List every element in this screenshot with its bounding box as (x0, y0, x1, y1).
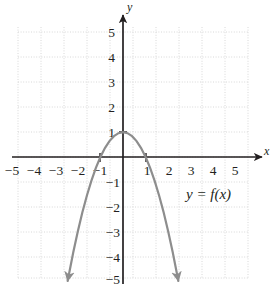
x-tick-label-4: 4 (210, 163, 217, 178)
x-tick-label--5: −5 (5, 163, 20, 178)
y-tick-label--5: −5 (106, 272, 121, 287)
x-tick-label-2: 2 (166, 163, 173, 178)
function-annotation: y = f(x) (184, 186, 231, 203)
grid-lines (18, 27, 248, 278)
y-tick-label-2: 2 (108, 100, 115, 115)
y-tick-label-3: 3 (108, 75, 115, 90)
graph-figure: x y −5 −4 −3 −2 −1 1 2 3 4 5 5 4 3 2 1 −… (0, 0, 274, 289)
x-tick-label-3: 3 (188, 163, 195, 178)
y-tick-label--1: −1 (106, 175, 120, 190)
y-tick-labels: 5 4 3 2 1 −1 −2 −3 −4 −5 (106, 25, 121, 287)
x-tick-labels: −5 −4 −3 −2 −1 1 2 3 4 5 (5, 163, 239, 178)
y-axis-label: y (126, 0, 133, 14)
x-tick-label--4: −4 (27, 163, 42, 178)
x-axis-label: x (263, 144, 270, 158)
y-tick-label--4: −4 (106, 250, 121, 265)
coordinate-plane-svg: x y −5 −4 −3 −2 −1 1 2 3 4 5 5 4 3 2 1 −… (0, 0, 274, 289)
y-tick-label--3: −3 (106, 225, 121, 240)
y-tick-label-5: 5 (108, 25, 115, 40)
x-tick-label--2: −2 (71, 163, 85, 178)
function-annotation-text: y = f(x) (184, 186, 231, 203)
y-tick-label--2: −2 (106, 200, 120, 215)
y-tick-label-4: 4 (108, 50, 115, 65)
x-tick-label--3: −3 (49, 163, 64, 178)
x-tick-label-5: 5 (232, 163, 239, 178)
